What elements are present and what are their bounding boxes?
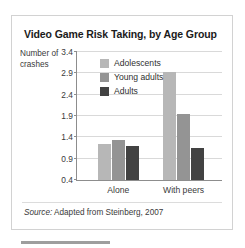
y-tick-label: 0.4 bbox=[61, 175, 73, 185]
y-tick-label: 1.9 bbox=[61, 111, 73, 121]
y-axis-title-line2: crashes bbox=[20, 60, 49, 69]
x-tick-label: Alone bbox=[107, 185, 129, 195]
legend-label-adults: Adults bbox=[114, 86, 138, 96]
bar bbox=[98, 144, 111, 180]
bar bbox=[112, 140, 125, 180]
legend-swatch-icon-young-adults bbox=[100, 73, 109, 82]
y-tick-label: 2.9 bbox=[61, 68, 73, 78]
x-tick-label: With peers bbox=[163, 185, 204, 195]
bar bbox=[177, 114, 190, 180]
legend-item-adults: Adults bbox=[100, 84, 163, 98]
y-tick-label: 0.9 bbox=[61, 154, 73, 164]
chart-figure: Video Game Risk Taking, by Age Group Num… bbox=[11, 15, 233, 230]
bar bbox=[163, 72, 176, 180]
bar bbox=[191, 148, 204, 180]
chart-title: Video Game Risk Taking, by Age Group bbox=[24, 28, 217, 40]
source-prefix: Source: bbox=[24, 208, 52, 217]
source-text: Adapted from Steinberg, 2007 bbox=[54, 208, 163, 217]
source-divider bbox=[22, 202, 222, 203]
bar bbox=[126, 146, 139, 180]
footer-rule bbox=[21, 241, 110, 244]
y-axis-title-line1: Number of bbox=[20, 49, 58, 58]
y-tick-label: 2.4 bbox=[61, 90, 73, 100]
y-tick-label: 1.4 bbox=[61, 132, 73, 142]
legend-label-adolescents: Adolescents bbox=[114, 58, 161, 68]
source-note: Source: Adapted from Steinberg, 2007 bbox=[24, 208, 163, 217]
y-tick-label: 3.4 bbox=[61, 47, 73, 57]
legend-swatch-icon-adolescents bbox=[100, 59, 109, 68]
legend-label-young-adults: Young adults bbox=[114, 72, 163, 82]
legend-swatch-icon-adults bbox=[100, 87, 109, 96]
legend-item-young-adults: Young adults bbox=[100, 70, 163, 84]
chart-legend: Adolescents Young adults Adults bbox=[100, 56, 163, 98]
legend-item-adolescents: Adolescents bbox=[100, 56, 163, 70]
bar-group bbox=[163, 52, 205, 180]
